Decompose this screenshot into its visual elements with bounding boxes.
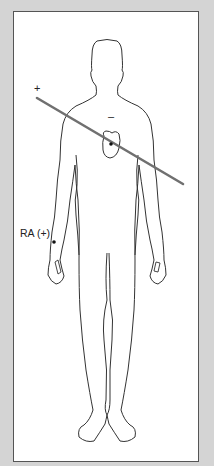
inner-legs — [103, 253, 112, 415]
negative-pole-label: – — [108, 111, 114, 122]
heart-center-dot — [109, 142, 113, 146]
positive-pole-label: + — [34, 83, 40, 94]
right-hand-detail — [154, 262, 160, 272]
electrode-label: RA (+) — [20, 228, 50, 239]
electrode-dot — [52, 240, 56, 244]
